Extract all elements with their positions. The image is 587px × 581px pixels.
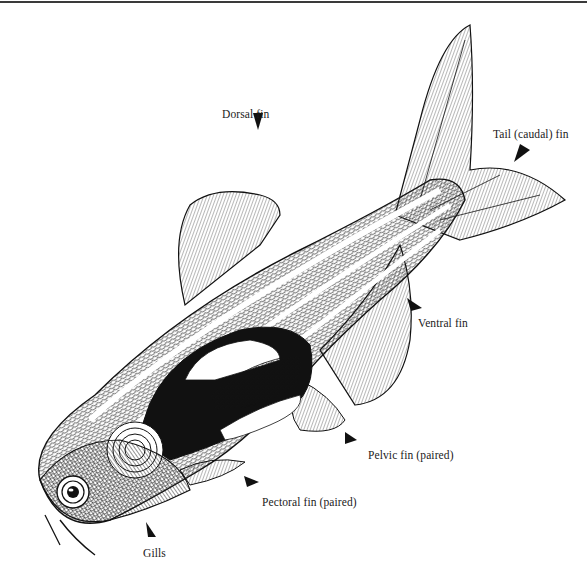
gills-pointer [146,522,156,537]
label-pectoral-fin: Pectoral fin (paired) [262,496,357,508]
eye-drawing [57,476,89,508]
label-gills: Gills [143,547,166,559]
pelvic-fin-pointer [345,432,357,444]
label-dorsal-fin: Dorsal fin [222,108,269,120]
tail-fin-pointer [514,144,530,162]
fish-illustration [0,0,587,581]
pectoral-fin-pointer [244,476,259,487]
label-pelvic-fin: Pelvic fin (paired) [368,449,454,461]
label-tail-fin: Tail (caudal) fin [493,128,569,140]
label-ventral-fin: Ventral fin [418,317,468,329]
